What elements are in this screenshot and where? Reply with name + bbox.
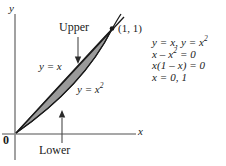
equation-line-3-prefix: x(1 – x) = 0 (152, 59, 205, 71)
curve-label-y-equals-x-squared: y = x2 (77, 84, 103, 95)
curve-label-base: y = x (77, 83, 100, 95)
equation-line-1-prefix: y = x, y = x (152, 36, 204, 48)
lower-arrow-head (59, 110, 65, 118)
intersection-point-label: (1, 1) (118, 23, 142, 34)
curve-label-exponent: 2 (100, 81, 104, 90)
curve-label-y-equals-x: y = x (39, 61, 62, 72)
origin-label: 0 (3, 134, 9, 146)
intersection-point-marker (110, 26, 115, 31)
equation-line-1-exponent: 2 (204, 34, 208, 43)
equation-block: y = x, y = x2 x – x2 = 0 x(1 – x) = 0 x … (152, 37, 226, 83)
equation-line-4-prefix: x = 0, 1 (152, 71, 187, 83)
lower-annotation-label: Lower (39, 144, 70, 156)
line-y-equals-x (16, 17, 124, 133)
upper-annotation-label: Upper (59, 21, 89, 33)
equation-line-2-prefix: x – x (152, 48, 173, 60)
math-figure: y x 0 Upper Lower (1, 1) y = x y = x2 y … (0, 0, 226, 166)
equation-line-4: x = 0, 1 (152, 72, 226, 84)
y-axis-label: y (9, 3, 14, 14)
equation-line-2-suffix: = 0 (177, 48, 196, 60)
x-axis-label: x (138, 126, 143, 137)
plot-canvas (0, 0, 226, 166)
